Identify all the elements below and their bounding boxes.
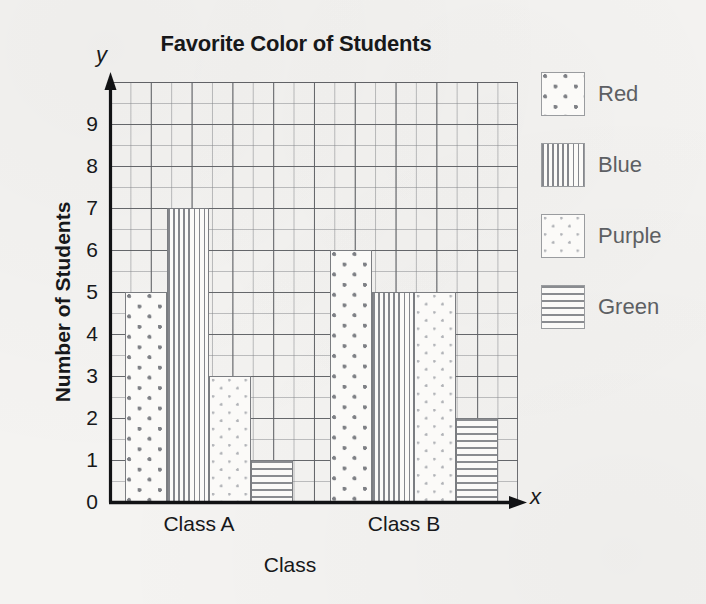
bar-chart-figure: Favorite Color of Students y x Number of… [0,0,706,604]
y-tick-5: 5 [72,280,98,304]
legend-item-red: Red [541,72,638,116]
legend-swatch-red-icon [541,72,585,116]
x-axis-letter: x [530,484,541,510]
y-tick-3: 3 [72,364,98,388]
legend-item-purple: Purple [541,214,662,258]
y-tick-9: 9 [72,112,98,136]
bar-class-a-blue [167,208,209,502]
y-tick-0: 0 [72,490,98,514]
bar-class-a-green [251,460,293,502]
bar-class-b-purple [414,292,456,502]
legend-swatch-purple-icon [541,214,585,258]
bar-class-a-purple [209,376,251,502]
legend-item-green: Green [541,285,659,329]
bar-class-a-red [125,292,167,502]
legend-swatch-blue-icon [541,143,585,187]
legend-label-purple: Purple [598,223,662,249]
y-tick-4: 4 [72,322,98,346]
x-axis-title: Class [190,553,390,577]
bar-class-b-blue [372,292,414,502]
y-tick-7: 7 [72,196,98,220]
y-tick-6: 6 [72,238,98,262]
plot-area [110,82,518,502]
bar-class-b-red [330,250,372,502]
y-tick-8: 8 [72,154,98,178]
legend-swatch-green-icon [541,285,585,329]
y-tick-2: 2 [72,406,98,430]
y-tick-1: 1 [72,448,98,472]
legend-label-green: Green [598,294,659,320]
bar-class-b-green [456,418,498,502]
legend-label-red: Red [598,81,638,107]
group-label-class-b: Class B [319,512,489,536]
legend-label-blue: Blue [598,152,642,178]
chart-title: Favorite Color of Students [131,31,461,57]
y-axis-letter: y [96,42,107,68]
legend-item-blue: Blue [541,143,642,187]
group-label-class-a: Class A [114,512,284,536]
